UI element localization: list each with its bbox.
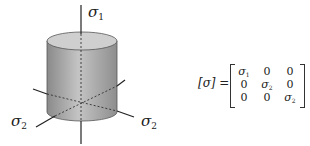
matrix-cell: σ1 bbox=[234, 65, 254, 78]
cylinder-body bbox=[47, 41, 117, 121]
matrix-cell: σ2 bbox=[257, 78, 277, 91]
matrix-cell: 0 bbox=[257, 91, 277, 104]
cylinder-stress-diagram: σ1 σ2 σ2 bbox=[0, 0, 170, 146]
matrix-cell: 0 bbox=[280, 78, 300, 91]
cylinder-top bbox=[47, 32, 117, 50]
sigma1-label: σ1 bbox=[88, 3, 104, 22]
stress-matrix: σ1 0 0 0 σ2 0 0 0 σ2 bbox=[230, 64, 305, 106]
right-bracket bbox=[300, 64, 305, 108]
matrix-cell: 0 bbox=[257, 65, 277, 78]
sigma2-right-label: σ2 bbox=[141, 112, 157, 131]
matrix-cell: 0 bbox=[234, 78, 254, 91]
matrix-lhs: [σ] = bbox=[198, 76, 229, 90]
sigma2-left-label: σ2 bbox=[11, 112, 27, 131]
matrix-cell: 0 bbox=[234, 91, 254, 104]
matrix-cell: σ2 bbox=[280, 91, 300, 104]
matrix-cell: 0 bbox=[280, 65, 300, 78]
